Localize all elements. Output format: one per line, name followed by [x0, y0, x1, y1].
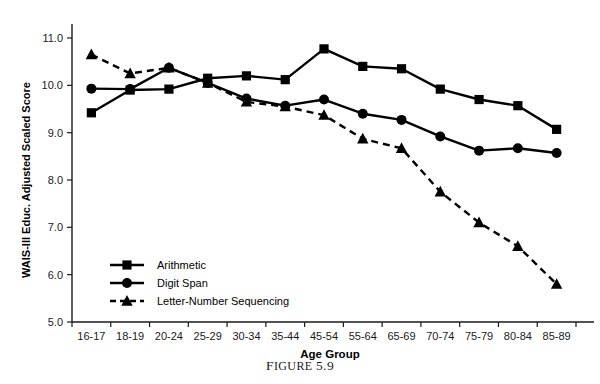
x-axis-tick-label: 80-84: [504, 330, 532, 342]
x-axis-tick-label: 65-69: [387, 330, 415, 342]
data-point: [513, 101, 522, 110]
data-point: [474, 146, 484, 156]
data-point: [319, 95, 329, 105]
data-point: [474, 95, 483, 104]
y-axis-tick-label: 9.0: [48, 127, 63, 139]
series-letter-number-sequencing: [86, 49, 563, 289]
chart-legend: ArithmeticDigit SpanLetter-Number Sequen…: [110, 259, 289, 307]
series-arithmetic: [87, 44, 561, 134]
legend-label-2: Digit Span: [157, 277, 208, 289]
data-point: [552, 148, 562, 158]
data-point: [435, 131, 445, 141]
x-axis-tick-label: 20-24: [155, 330, 183, 342]
x-axis-tick-label: 30-34: [232, 330, 260, 342]
data-point: [86, 49, 97, 60]
data-point: [319, 44, 328, 53]
y-axis-tick-label: 7.0: [48, 221, 63, 233]
data-point: [397, 115, 407, 125]
data-point: [357, 133, 368, 144]
figure-caption-word: IGURE: [274, 359, 313, 373]
data-point: [164, 85, 173, 94]
data-point: [358, 62, 367, 71]
y-axis-tick-label: 8.0: [48, 174, 63, 186]
data-point: [242, 71, 251, 80]
x-axis-tick-label: 16-17: [77, 330, 105, 342]
legend-label-3: Letter-Number Sequencing: [157, 295, 289, 307]
data-point: [552, 125, 561, 134]
data-point: [397, 64, 406, 73]
y-axis-tick-label: 5.0: [48, 316, 63, 328]
data-point: [86, 84, 96, 94]
figure-caption: FIGURE 5.9: [0, 358, 600, 374]
x-axis-tick-label: 35-44: [271, 330, 299, 342]
x-axis-tick-label: 70-74: [426, 330, 454, 342]
chart-canvas: 5.06.07.08.09.010.011.016-1718-1920-2425…: [0, 0, 600, 384]
x-axis-tick-label: 45-54: [310, 330, 338, 342]
data-point: [125, 84, 135, 94]
legend-marker-2: [122, 278, 132, 288]
data-point: [281, 75, 290, 84]
legend-label-1: Arithmetic: [157, 259, 206, 271]
y-axis-tick-label: 11.0: [42, 32, 63, 44]
data-point: [358, 109, 368, 119]
data-point: [512, 240, 523, 251]
x-axis-tick-label: 55-64: [349, 330, 377, 342]
legend-marker-1: [122, 260, 131, 269]
figure-caption-number: 5.9: [316, 358, 334, 373]
data-point: [513, 143, 523, 153]
x-axis-tick-label: 85-89: [543, 330, 571, 342]
y-axis-tick-label: 10.0: [42, 79, 63, 91]
data-point: [87, 108, 96, 117]
y-axis-tick-label: 6.0: [48, 269, 63, 281]
figure-container: 5.06.07.08.09.010.011.016-1718-1920-2425…: [0, 0, 600, 384]
x-axis-tick-label: 25-29: [194, 330, 222, 342]
data-point: [435, 186, 446, 197]
data-point: [436, 85, 445, 94]
x-axis-tick-label: 75-79: [465, 330, 493, 342]
figure-caption-text: F: [266, 358, 274, 373]
y-axis-title: WAIS-III Educ. Adjusted Scaled Score: [20, 82, 32, 278]
x-axis-tick-label: 18-19: [116, 330, 144, 342]
